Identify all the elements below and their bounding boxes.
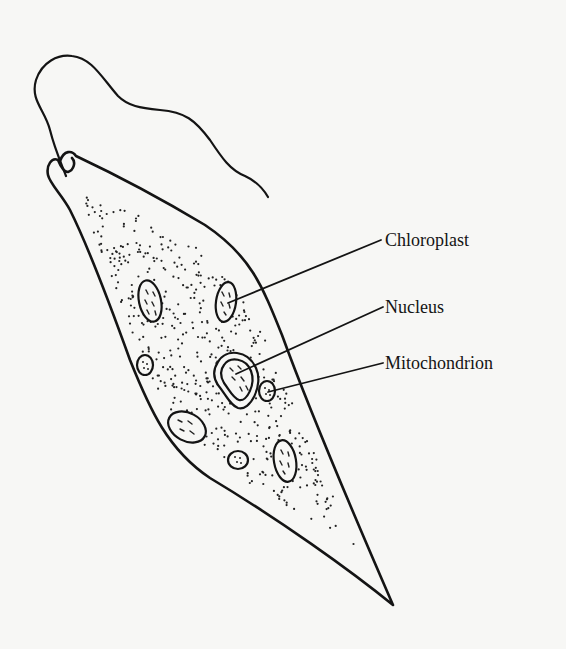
mitochondrion-left (137, 355, 153, 375)
chloroplast-lower-left (163, 405, 211, 449)
cell-illustration (0, 0, 566, 649)
euglena-diagram: Chloroplast Nucleus Mitochondrion (0, 0, 566, 649)
nucleus-leader-line (236, 307, 383, 374)
chloroplast-lower-right (271, 438, 300, 483)
mitochondrion-leader-line (268, 363, 383, 392)
chloroplast-left (135, 278, 165, 324)
nucleus-label: Nucleus (385, 298, 444, 316)
mitochondrion-bottom (228, 451, 248, 469)
flagellum (35, 56, 268, 197)
chloroplast-label: Chloroplast (385, 231, 469, 249)
mitochondrion-label: Mitochondrion (385, 354, 493, 372)
nucleus[interactable] (214, 353, 258, 409)
chloroplast-upper-right[interactable] (213, 281, 238, 323)
